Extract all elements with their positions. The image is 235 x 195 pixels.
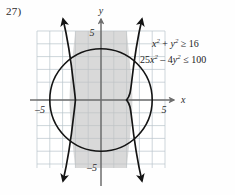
eq1-x-exponent: 2	[156, 37, 159, 44]
y-axis-tick-label-positive: 5	[90, 27, 95, 38]
x-axis-tick-label-positive: 5	[162, 104, 167, 115]
y-axis-tick-label-negative: –5	[86, 162, 97, 173]
coordinate-plane: 5 –5 –5 5 y x	[0, 0, 235, 195]
x-axis-tick-label-negative: –5	[34, 104, 45, 115]
inequality-hyperbola: 25x2 – 4y2 ≤ 100	[140, 52, 235, 68]
inequality-circle: x2 + y2 ≥ 16	[140, 36, 235, 52]
eq2-y-exponent: 2	[177, 53, 180, 60]
x-axis-label: x	[180, 94, 186, 105]
eq1-y-exponent: 2	[175, 37, 178, 44]
eq1-relation: ≥	[181, 38, 187, 49]
eq1-plus: +	[162, 38, 168, 49]
eq1-rhs: 16	[189, 38, 199, 49]
eq2-coefficient: 25	[140, 54, 150, 65]
eq2-relation: ≤	[183, 54, 189, 65]
y-axis-label: y	[98, 5, 104, 16]
eq2-rhs: 100	[191, 54, 206, 65]
equation-annotation: x2 + y2 ≥ 16 25x2 – 4y2 ≤ 100	[140, 36, 235, 68]
figure-container: 27)	[0, 0, 235, 195]
eq2-x-exponent: 2	[154, 53, 157, 60]
eq2-minus: –	[160, 54, 165, 65]
